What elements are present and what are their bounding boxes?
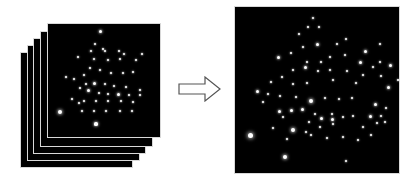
diffraction-spot bbox=[344, 54, 346, 56]
diffraction-spot bbox=[125, 86, 127, 88]
diffraction-spot bbox=[93, 110, 95, 112]
diffraction-spot bbox=[78, 102, 80, 104]
diffraction-spot bbox=[58, 110, 62, 114]
diffraction-spot bbox=[83, 100, 85, 102]
diffraction-spot bbox=[355, 82, 357, 84]
diffraction-spot bbox=[94, 122, 97, 125]
diffraction-spot bbox=[362, 126, 364, 128]
diffraction-spot bbox=[279, 95, 281, 97]
diffraction-spot bbox=[90, 50, 92, 52]
diffraction-spot bbox=[290, 52, 292, 54]
diffraction-spot bbox=[93, 82, 96, 85]
diffraction-spot bbox=[131, 110, 133, 112]
diffraction-spot bbox=[374, 103, 377, 106]
diffraction-spot bbox=[292, 69, 294, 71]
diffraction-spot bbox=[120, 100, 122, 102]
diffraction-spot bbox=[89, 67, 91, 69]
diffraction-spot bbox=[402, 84, 404, 86]
diffraction-spot bbox=[302, 46, 304, 48]
diffraction-spot bbox=[135, 59, 137, 61]
diffraction-spot bbox=[320, 117, 323, 120]
diffraction-spot bbox=[104, 50, 106, 52]
diffraction-spot bbox=[256, 90, 259, 93]
diffraction-spot bbox=[372, 66, 374, 68]
diffraction-spot bbox=[376, 122, 378, 124]
diffraction-spot bbox=[99, 69, 101, 71]
diffraction-spot bbox=[351, 97, 353, 99]
diffraction-spot bbox=[122, 72, 124, 74]
diffraction-spot bbox=[336, 43, 338, 45]
diffraction-spot bbox=[98, 92, 100, 94]
diffraction-spot bbox=[338, 98, 340, 100]
diffraction-spot bbox=[107, 93, 109, 95]
diffraction-spot bbox=[118, 50, 120, 52]
diffraction-spot bbox=[370, 134, 372, 136]
diffraction-spot bbox=[308, 121, 310, 123]
diffraction-spot bbox=[110, 72, 112, 74]
diffraction-spot bbox=[132, 101, 134, 103]
diffraction-spot bbox=[107, 100, 109, 102]
diffraction-spot bbox=[104, 83, 106, 85]
diffraction-spot bbox=[79, 87, 81, 89]
diffraction-spot bbox=[324, 97, 326, 99]
diffraction-spot bbox=[304, 66, 307, 69]
diffraction-spot bbox=[278, 110, 281, 113]
diffraction-spot bbox=[123, 53, 125, 55]
diffraction-spot bbox=[397, 79, 399, 81]
diffraction-spot bbox=[314, 113, 316, 115]
diffraction-spot bbox=[277, 56, 280, 59]
diffraction-spot bbox=[352, 115, 354, 117]
diffraction-spot bbox=[342, 116, 344, 118]
diffraction-spot bbox=[99, 30, 102, 33]
diffraction-spot bbox=[385, 107, 387, 109]
diffraction-spot bbox=[326, 137, 328, 139]
diffraction-spot bbox=[318, 26, 320, 28]
diffraction-spot bbox=[309, 99, 313, 103]
diffraction-spot bbox=[270, 81, 272, 83]
merged-diffraction-frame bbox=[234, 6, 400, 174]
diffraction-spot bbox=[267, 93, 269, 95]
diffraction-spot bbox=[332, 123, 334, 125]
diffraction-spot bbox=[379, 61, 381, 63]
diffraction-spot bbox=[380, 115, 382, 117]
diffraction-spot bbox=[85, 83, 87, 85]
diffraction-spot bbox=[107, 59, 109, 61]
diffraction-spot bbox=[312, 17, 314, 19]
diffraction-spot bbox=[93, 58, 95, 60]
diffraction-spot bbox=[73, 78, 75, 80]
diffraction-spot bbox=[362, 74, 364, 76]
diffraction-spot bbox=[310, 134, 312, 136]
diffraction-spot bbox=[281, 76, 283, 78]
diffraction-spot bbox=[345, 38, 347, 40]
diffraction-spot bbox=[71, 98, 73, 100]
diffraction-spot bbox=[389, 64, 392, 67]
diffraction-spot bbox=[119, 58, 121, 60]
diffraction-spot bbox=[298, 33, 300, 35]
diffraction-spot bbox=[272, 127, 274, 129]
diffraction-spot bbox=[141, 53, 143, 55]
diffraction-spot bbox=[81, 110, 83, 112]
diffraction-spot bbox=[359, 61, 362, 64]
diffraction-spot bbox=[384, 121, 386, 123]
diffraction-spot bbox=[95, 100, 97, 102]
diffraction-spot bbox=[342, 136, 344, 138]
diffraction-spot bbox=[357, 139, 359, 141]
diffraction-spot bbox=[113, 85, 115, 87]
diffraction-spot bbox=[87, 89, 90, 92]
diffraction-spot bbox=[77, 56, 79, 58]
diffraction-spot bbox=[132, 71, 134, 73]
diffraction-spot bbox=[282, 116, 284, 118]
diffraction-spot bbox=[94, 43, 96, 45]
diffraction-spot bbox=[379, 43, 381, 45]
diffraction-spot bbox=[286, 138, 288, 140]
right-arrow-icon bbox=[178, 76, 222, 102]
diffraction-spot bbox=[346, 70, 348, 72]
diffraction-spot bbox=[295, 96, 297, 98]
diffraction-spot bbox=[139, 89, 141, 91]
diffraction-spot bbox=[329, 69, 331, 71]
diffraction-spot bbox=[305, 131, 307, 133]
diffraction-spot bbox=[331, 113, 333, 115]
diffraction-spot bbox=[105, 110, 107, 112]
diffraction-spot bbox=[306, 61, 308, 63]
diffraction-spot bbox=[262, 101, 264, 103]
